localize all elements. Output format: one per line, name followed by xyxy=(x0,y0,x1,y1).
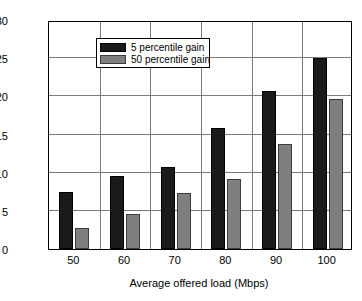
legend-label: 50 percentile gain xyxy=(131,54,210,65)
y-tick-label: 30 xyxy=(0,15,8,27)
y-tick-label: 10 xyxy=(0,168,8,180)
x-tick-label: 90 xyxy=(253,254,299,266)
y-tick-label: 25 xyxy=(0,53,8,65)
chart-legend: 5 percentile gain 50 percentile gain xyxy=(96,38,210,68)
bar xyxy=(59,192,73,249)
bar xyxy=(329,99,343,249)
x-tick-label: 80 xyxy=(202,254,248,266)
bar-chart-figure: User throughput gain (%) Average offered… xyxy=(0,0,362,301)
bar xyxy=(126,214,140,249)
x-axis-title: Average offered load (Mbps) xyxy=(46,277,352,289)
x-tick-label: 50 xyxy=(50,254,96,266)
y-tick-label: 15 xyxy=(0,130,8,142)
gridline-vertical xyxy=(302,22,303,249)
x-tick-label: 100 xyxy=(304,254,350,266)
x-tick-label: 70 xyxy=(152,254,198,266)
legend-label: 5 percentile gain xyxy=(131,42,204,53)
gridline-horizontal xyxy=(49,210,351,211)
gridline-vertical xyxy=(252,22,253,249)
y-tick-label: 0 xyxy=(0,244,8,256)
legend-swatch-icon xyxy=(100,43,126,52)
bar xyxy=(211,128,225,249)
bar xyxy=(161,167,175,249)
bar xyxy=(278,144,292,249)
bar xyxy=(227,179,241,249)
y-tick-label: 20 xyxy=(0,91,8,103)
bar xyxy=(313,58,327,249)
gridline-horizontal xyxy=(49,172,351,173)
gridline-horizontal xyxy=(49,95,351,96)
legend-swatch-icon xyxy=(100,55,126,64)
x-tick-label: 60 xyxy=(101,254,147,266)
legend-item: 50 percentile gain xyxy=(100,53,206,65)
bar xyxy=(262,91,276,249)
gridline-horizontal xyxy=(49,134,351,135)
legend-item: 5 percentile gain xyxy=(100,41,206,53)
bar xyxy=(75,228,89,249)
bar xyxy=(110,176,124,249)
bar xyxy=(177,193,191,249)
y-tick-label: 5 xyxy=(0,206,8,218)
